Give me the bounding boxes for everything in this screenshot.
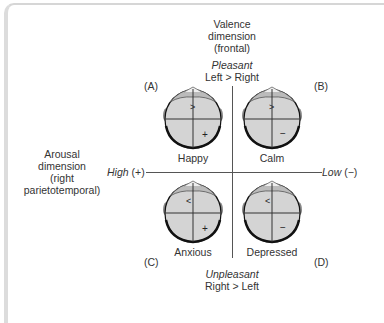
arousal-title-line: parietotemporal) <box>22 184 102 196</box>
valence-title-line: dimension <box>200 30 264 42</box>
unpleasant-label: Unpleasant <box>192 268 272 280</box>
low-sign: (−) <box>344 166 357 178</box>
parietal-symbol: + <box>202 223 208 234</box>
valence-title-line: Valence <box>200 18 264 30</box>
head-diagram-depressed: < − <box>239 180 305 244</box>
quadrant-a-letter: (A) <box>144 80 158 92</box>
emotion-label-happy: Happy <box>170 152 216 164</box>
quadrant-b-letter: (B) <box>314 80 328 92</box>
head-diagram-calm: > − <box>239 86 305 150</box>
pleasant-sublabel: Left > Right <box>195 71 269 83</box>
head-diagram-anxious: < + <box>160 180 226 244</box>
quadrant-c-letter: (C) <box>144 256 159 268</box>
parietal-symbol: − <box>280 222 286 233</box>
low-label: Low <box>322 166 341 178</box>
high-label: High <box>107 166 129 178</box>
arousal-title-line: (right <box>22 172 102 184</box>
pleasant-label: Pleasant <box>200 59 264 71</box>
valence-dimension-title: Valence dimension (frontal) <box>200 18 264 54</box>
emotion-label-anxious: Anxious <box>168 246 218 258</box>
head-diagram-happy: > + <box>160 86 226 150</box>
arousal-title-line: dimension <box>22 160 102 172</box>
low-arousal-label: Low (−) <box>322 166 357 178</box>
high-sign: (+) <box>132 166 145 178</box>
quadrant-d-letter: (D) <box>314 256 329 268</box>
valence-title-line: (frontal) <box>200 42 264 54</box>
frontal-symbol: > <box>269 102 274 112</box>
frontal-symbol: < <box>265 196 270 206</box>
parietal-symbol: − <box>280 128 286 139</box>
arousal-axis-line <box>146 172 322 173</box>
unpleasant-sublabel: Right > Left <box>192 280 272 292</box>
arousal-title-line: Arousal <box>22 148 102 160</box>
emotion-label-calm: Calm <box>249 152 295 164</box>
arousal-dimension-title: Arousal dimension (right parietotemporal… <box>22 148 102 196</box>
frontal-symbol: > <box>190 102 195 112</box>
emotion-label-depressed: Depressed <box>242 246 302 258</box>
parietal-symbol: + <box>202 129 208 140</box>
frontal-symbol: < <box>186 196 191 206</box>
high-arousal-label: High (+) <box>107 166 145 178</box>
